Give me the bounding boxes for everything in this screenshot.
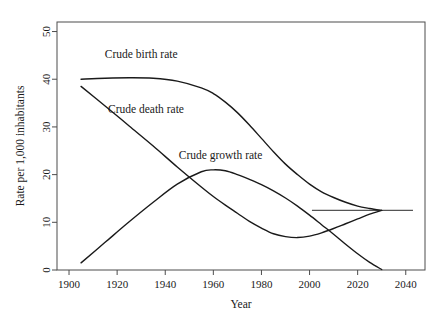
x-tick-label: 1920 [106,278,129,290]
x-tick-label: 2020 [347,278,370,290]
series-line-crude-birth-rate [81,78,382,211]
y-tick-label: 50 [40,26,52,37]
y-tick-label: 40 [40,73,52,85]
x-tick-label: 2040 [395,278,418,290]
x-tick-label: 2000 [299,278,322,290]
x-tick-label: 1900 [58,278,81,290]
x-axis-title: Year [230,298,251,310]
chart-container: 1900192019401960198020002020204001020304… [0,0,446,321]
y-tick-label: 0 [40,267,52,273]
x-tick-label: 1980 [250,278,273,290]
series-label-crude-death-rate: Crude death rate [108,103,184,115]
x-tick-label: 1940 [154,278,177,290]
y-tick-label: 20 [40,169,52,181]
series-line-crude-growth-rate [81,170,382,270]
demographic-transition-chart: 1900192019401960198020002020204001020304… [0,0,446,321]
y-axis-title: Rate per 1,000 inhabitants [14,85,27,206]
y-tick-label: 10 [40,216,52,228]
x-tick-label: 1960 [202,278,225,290]
y-tick-label: 30 [40,121,52,133]
series-label-crude-growth-rate: Crude growth rate [179,149,263,162]
series-label-crude-birth-rate: Crude birth rate [105,48,178,60]
